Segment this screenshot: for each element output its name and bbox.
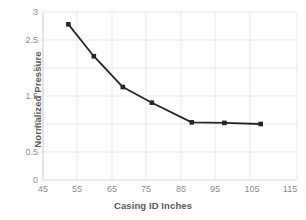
chart-container: Normalized Pressure 3 2.5 2 1.5 1 0.5 0 … <box>0 0 306 220</box>
data-point-marker <box>66 22 71 27</box>
data-point-marker <box>258 122 263 127</box>
data-point-marker <box>189 120 194 125</box>
plot-area <box>0 0 306 220</box>
data-point-marker <box>121 85 126 90</box>
data-series-line <box>68 24 260 124</box>
data-point-marker <box>92 54 97 59</box>
data-point-marker <box>150 100 155 105</box>
data-point-marker <box>222 121 227 126</box>
grid-lines <box>43 12 297 180</box>
data-series-markers <box>66 22 263 126</box>
